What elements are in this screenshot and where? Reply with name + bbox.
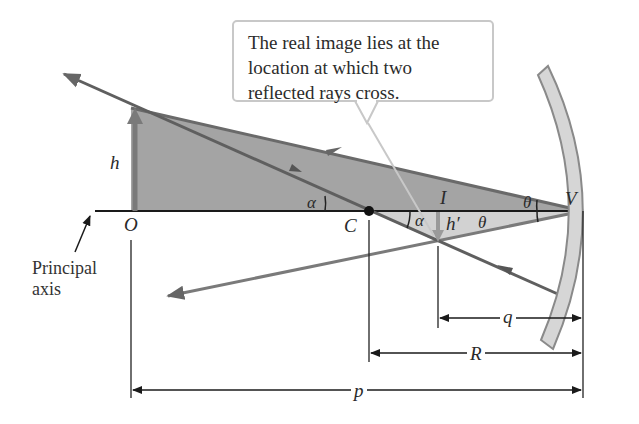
label-principal-axis-line-1: Principal	[32, 258, 97, 279]
reflected-ray-from-vertex	[168, 211, 583, 296]
callout-box: The real image lies at the location at w…	[232, 20, 494, 102]
callout-notch-cover	[357, 99, 376, 103]
label-O: O	[124, 215, 138, 234]
label-V: V	[565, 189, 577, 208]
label-principal-axis-line-2: axis	[32, 279, 97, 300]
label-h-prime: h′	[446, 214, 460, 233]
callout-line-2: location at which two	[248, 55, 482, 80]
angle-arc-alpha-upper	[325, 196, 326, 211]
label-theta-lower: θ	[478, 214, 486, 231]
label-C: C	[344, 216, 357, 235]
label-I: I	[440, 188, 446, 207]
image-triangle-shade	[369, 211, 583, 242]
principal-axis-pointer	[75, 216, 90, 252]
label-dimension-p: p	[351, 381, 367, 400]
label-alpha-lower: α	[415, 212, 424, 229]
callout-line-1: The real image lies at the	[248, 30, 482, 55]
label-principal-axis: Principal axis	[32, 258, 97, 300]
label-h: h	[110, 153, 120, 172]
ray-arrow-icon	[497, 265, 513, 275]
center-of-curvature-dot	[364, 206, 374, 216]
label-alpha-upper: α	[307, 194, 316, 211]
label-dimension-q: q	[500, 307, 516, 326]
label-theta-upper: θ	[523, 194, 531, 211]
label-dimension-R: R	[467, 344, 485, 363]
